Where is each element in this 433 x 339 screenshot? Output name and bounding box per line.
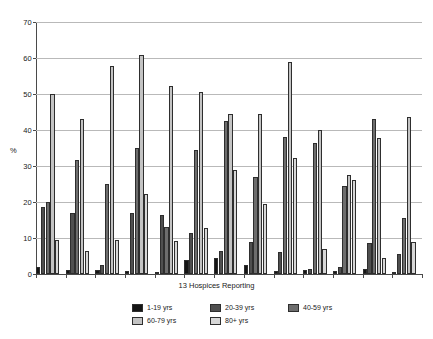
bar	[75, 160, 79, 274]
bar	[169, 86, 173, 274]
x-tick-mark	[36, 274, 37, 278]
bar	[352, 180, 356, 274]
bar	[199, 92, 203, 274]
legend-item: 1-19 yrs	[132, 302, 206, 313]
bar	[308, 269, 312, 274]
bar	[189, 233, 193, 274]
bar	[100, 265, 104, 274]
bar-groups	[36, 22, 422, 274]
bar-group	[36, 22, 66, 274]
bar-group	[66, 22, 96, 274]
x-tick-mark	[184, 274, 185, 278]
y-tick-mark	[33, 202, 36, 203]
bar	[253, 177, 257, 274]
y-tick-label: 30	[12, 162, 32, 171]
gridline	[36, 274, 422, 275]
bar	[219, 251, 223, 274]
bar	[377, 138, 381, 274]
y-tick-label: 20	[12, 198, 32, 207]
y-tick-mark	[33, 58, 36, 59]
bar	[342, 186, 346, 274]
x-tick-mark	[66, 274, 67, 278]
bar	[115, 240, 119, 274]
y-tick-mark	[33, 130, 36, 131]
bar	[130, 213, 134, 274]
x-tick-mark	[422, 274, 423, 278]
legend-swatch	[210, 304, 221, 312]
plot-area	[36, 22, 422, 274]
y-axis-title: %	[10, 146, 17, 155]
legend-item: 80+ yrs	[210, 315, 284, 326]
bar	[347, 175, 351, 274]
bar	[174, 241, 178, 274]
y-tick-label: 70	[12, 18, 32, 27]
bar	[110, 66, 114, 274]
bar	[372, 119, 376, 274]
bar	[80, 119, 84, 274]
legend-label: 60-79 yrs	[147, 317, 176, 324]
x-tick-mark	[244, 274, 245, 278]
bar	[244, 265, 248, 274]
bar	[258, 114, 262, 274]
legend-swatch	[132, 304, 143, 312]
x-tick-mark	[95, 274, 96, 278]
bar-chart: 010203040506070 % 13 Hospices Reporting …	[0, 0, 433, 339]
legend-label: 20-39 yrs	[225, 304, 254, 311]
bar	[139, 55, 143, 274]
bar	[407, 117, 411, 274]
y-tick-mark	[33, 274, 36, 275]
bar	[283, 137, 287, 274]
bar	[70, 213, 74, 274]
x-tick-mark	[214, 274, 215, 278]
y-tick-label: 10	[12, 234, 32, 243]
x-tick-mark	[155, 274, 156, 278]
bar	[194, 150, 198, 274]
x-tick-mark	[363, 274, 364, 278]
legend-label: 80+ yrs	[225, 317, 248, 324]
x-tick-mark	[274, 274, 275, 278]
bar	[367, 243, 371, 274]
y-tick-mark	[33, 166, 36, 167]
bar	[278, 252, 282, 274]
bar	[397, 254, 401, 274]
bar	[164, 227, 168, 274]
bar	[228, 114, 232, 274]
bar	[135, 148, 139, 274]
bar-group	[244, 22, 274, 274]
y-tick-mark	[33, 94, 36, 95]
bar	[50, 94, 54, 274]
bar	[233, 170, 237, 274]
bar-group	[155, 22, 185, 274]
legend-label: 40-59 yrs	[303, 304, 332, 311]
bar-group	[125, 22, 155, 274]
bar-group	[392, 22, 422, 274]
legend-swatch	[288, 304, 299, 312]
bar	[105, 184, 109, 274]
bar	[318, 130, 322, 274]
legend-swatch	[210, 317, 221, 325]
bar	[313, 143, 317, 274]
bar	[411, 242, 415, 274]
bar	[85, 251, 89, 274]
bar	[55, 240, 59, 274]
bar	[184, 260, 188, 274]
bar	[293, 158, 297, 274]
bar	[46, 202, 50, 274]
y-tick-label: 0	[12, 270, 32, 279]
bar-group	[95, 22, 125, 274]
x-axis-title: 13 Hospices Reporting	[0, 281, 433, 290]
bar	[263, 204, 267, 274]
bar	[36, 267, 40, 274]
legend-label: 1-19 yrs	[147, 304, 172, 311]
bar-group	[214, 22, 244, 274]
legend-item: 60-79 yrs	[132, 315, 206, 326]
y-tick-mark	[33, 238, 36, 239]
legend-item: 40-59 yrs	[288, 302, 362, 313]
chart-legend: 1-19 yrs20-39 yrs40-59 yrs60-79 yrs80+ y…	[132, 302, 362, 326]
y-tick-label: 60	[12, 54, 32, 63]
bar	[249, 242, 253, 274]
bar	[204, 228, 208, 274]
bar-group	[363, 22, 393, 274]
y-tick-label: 50	[12, 90, 32, 99]
y-tick-mark	[33, 22, 36, 23]
